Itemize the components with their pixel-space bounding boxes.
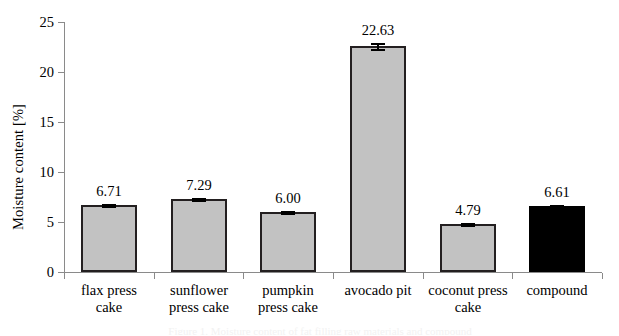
y-axis-line bbox=[64, 22, 65, 273]
x-axis-category-label: avocado pit bbox=[333, 282, 423, 299]
category-label-line: flax press bbox=[64, 282, 154, 299]
bar bbox=[81, 205, 137, 272]
bar-value-label: 6.71 bbox=[69, 184, 149, 199]
category-label-line: pumpkin bbox=[243, 282, 333, 299]
x-axis-tick bbox=[333, 273, 334, 279]
category-label-line: press cake bbox=[154, 299, 244, 316]
error-bar-cap-lower bbox=[102, 206, 116, 208]
bar bbox=[260, 212, 316, 272]
bar-value-label: 22.63 bbox=[338, 23, 418, 38]
x-axis-category-label: coconut presscake bbox=[423, 282, 513, 316]
x-axis-tick bbox=[64, 273, 65, 279]
y-axis-tick bbox=[58, 122, 64, 123]
x-axis-category-label: sunflowerpress cake bbox=[154, 282, 244, 316]
x-axis-tick bbox=[423, 273, 424, 279]
error-bar-cap-lower bbox=[550, 207, 564, 209]
y-axis-tick-label: 10 bbox=[20, 165, 54, 180]
y-axis-tick-label: 5 bbox=[20, 215, 54, 230]
category-label-line: coconut press bbox=[423, 282, 513, 299]
error-bar-cap-lower bbox=[281, 213, 295, 215]
x-axis-tick bbox=[512, 273, 513, 279]
category-label-line: avocado pit bbox=[333, 282, 423, 299]
y-axis-tick bbox=[58, 222, 64, 223]
x-axis-category-label: compound bbox=[512, 282, 602, 299]
category-label-line: cake bbox=[423, 299, 513, 316]
y-axis-tick bbox=[58, 172, 64, 173]
y-axis-tick-label: 0 bbox=[20, 265, 54, 280]
bar-value-label: 6.00 bbox=[248, 191, 328, 206]
bar bbox=[350, 46, 406, 272]
category-label-line: cake bbox=[64, 299, 154, 316]
y-axis-tick bbox=[58, 72, 64, 73]
error-bar-cap-lower bbox=[461, 225, 475, 227]
category-label-line: compound bbox=[512, 282, 602, 299]
error-bar-cap-lower bbox=[192, 200, 206, 202]
error-bar-cap-upper bbox=[371, 43, 385, 45]
bar bbox=[529, 206, 585, 272]
category-label-line: press cake bbox=[243, 299, 333, 316]
x-axis-tick bbox=[243, 273, 244, 279]
bar bbox=[440, 224, 496, 272]
figure-caption-partial: Figure 1. Moisture content of fat fillin… bbox=[110, 325, 530, 335]
bar bbox=[171, 199, 227, 272]
bar-chart: Moisture content [%] 0510152025 6.717.29… bbox=[0, 0, 619, 336]
x-axis-tick bbox=[154, 273, 155, 279]
bar-value-label: 4.79 bbox=[428, 203, 508, 218]
bar-value-label: 6.61 bbox=[517, 185, 597, 200]
y-axis-tick-labels: 0510152025 bbox=[14, 0, 54, 336]
error-bar-cap-lower bbox=[371, 49, 385, 51]
y-axis-tick bbox=[58, 22, 64, 23]
x-axis-category-label: pumpkinpress cake bbox=[243, 282, 333, 316]
x-axis-tick bbox=[602, 273, 603, 279]
y-axis-tick-label: 15 bbox=[20, 115, 54, 130]
y-axis-tick-label: 20 bbox=[20, 65, 54, 80]
category-label-line: sunflower bbox=[154, 282, 244, 299]
x-axis-category-label: flax presscake bbox=[64, 282, 154, 316]
y-axis-tick-label: 25 bbox=[20, 15, 54, 30]
bar-value-label: 7.29 bbox=[159, 178, 239, 193]
